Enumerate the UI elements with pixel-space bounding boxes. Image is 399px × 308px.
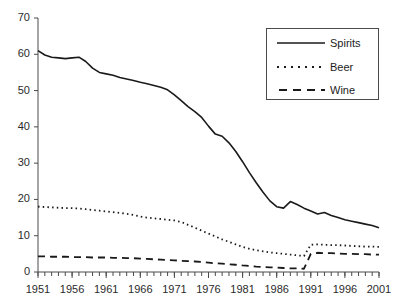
legend-label-beer: Beer: [330, 61, 353, 73]
legend-label-spirits: Spirits: [330, 37, 361, 49]
y-tick-label: 20: [0, 193, 30, 204]
series-line-wine: [38, 253, 379, 269]
legend-item-beer: Beer: [267, 55, 380, 79]
x-tick-label: 2001: [357, 284, 399, 295]
chart-legend: Spirits Beer Wine: [266, 28, 379, 100]
legend-label-wine: Wine: [330, 84, 355, 96]
legend-swatch-wine: [275, 83, 327, 97]
legend-swatch-spirits: [275, 36, 327, 50]
legend-item-spirits: Spirits: [267, 31, 380, 55]
y-tick-label: 0: [0, 266, 30, 277]
y-tick-label: 40: [0, 121, 30, 132]
y-tick-label: 30: [0, 157, 30, 168]
legend-swatch-beer: [275, 60, 327, 74]
y-tick-label: 10: [0, 230, 30, 241]
y-axis-ticks: [34, 18, 38, 272]
x-axis-minor-ticks: [38, 272, 379, 276]
legend-item-wine: Wine: [267, 78, 380, 102]
y-tick-label: 50: [0, 85, 30, 96]
chart-container: 010203040506070 195119561961196619711976…: [0, 0, 399, 308]
y-tick-label: 70: [0, 12, 30, 23]
y-tick-label: 60: [0, 48, 30, 59]
